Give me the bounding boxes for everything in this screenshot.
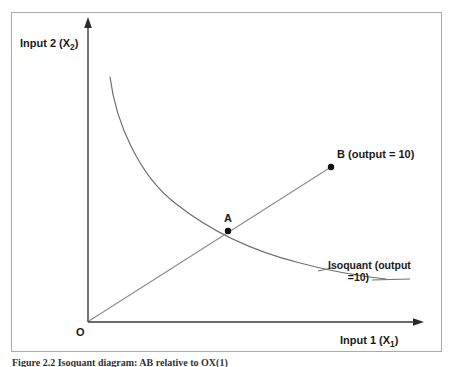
figure-frame [11, 12, 442, 352]
isoquant-label-line-1: Isoquant (output [328, 259, 411, 271]
y-axis-label: Input 2 (X2) [20, 37, 78, 53]
x-axis-label-main: Input 1 (X [340, 334, 390, 346]
figure-root: Input 2 (X2) Input 1 (X1) O A B (output … [0, 0, 454, 367]
x-axis-label-close: ) [395, 334, 399, 346]
point-a-label: A [224, 212, 232, 225]
y-axis-label-close: ) [75, 37, 79, 49]
figure-caption: Figure 2.2 Isoquant diagram: AB relative… [12, 357, 442, 367]
y-axis-label-main: Input 2 (X [20, 37, 70, 49]
x-axis-label: Input 1 (X1) [340, 334, 398, 350]
isoquant-label-line-2: =10) [328, 271, 411, 283]
origin-label: O [76, 326, 85, 339]
point-b-label: B (output = 10) [337, 148, 414, 161]
isoquant-label: Isoquant (output=10) [328, 259, 411, 284]
